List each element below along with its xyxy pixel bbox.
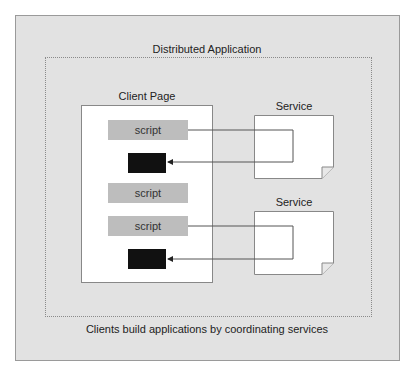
diagram-caption: Clients build applications by coordinati…	[0, 323, 414, 335]
connector-arrows	[0, 0, 414, 377]
